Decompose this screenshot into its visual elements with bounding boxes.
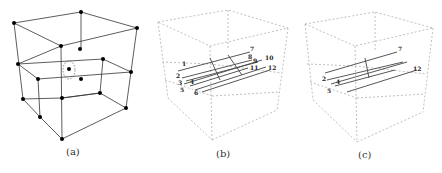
label-9: 9 bbox=[253, 57, 257, 64]
caption-c: (c) bbox=[358, 149, 371, 160]
caption-b: (b) bbox=[216, 148, 230, 159]
panel-a: (a) bbox=[0, 0, 150, 173]
label-5: 5 bbox=[327, 87, 331, 94]
caption-a: (a) bbox=[66, 146, 80, 157]
label-8: 8 bbox=[248, 53, 252, 60]
label-4: 4 bbox=[336, 78, 340, 85]
label-11: 11 bbox=[250, 64, 258, 71]
label-7: 7 bbox=[398, 45, 402, 52]
panel-c: 2 4 5 7 12 (c) bbox=[295, 0, 442, 173]
label-6: 6 bbox=[194, 89, 198, 96]
panel-b: 1 2 3 4 5 6 7 8 9 10 11 12 (b) bbox=[150, 0, 300, 173]
label-2: 2 bbox=[176, 72, 180, 79]
label-3: 3 bbox=[178, 79, 182, 86]
label-1: 1 bbox=[182, 60, 186, 67]
label-5: 5 bbox=[180, 86, 184, 93]
label-12: 12 bbox=[413, 65, 421, 72]
label-2: 2 bbox=[322, 75, 326, 82]
label-10: 10 bbox=[265, 54, 273, 61]
label-7: 7 bbox=[250, 45, 254, 52]
arrow-cube-diagram-c: 2 4 5 7 12 bbox=[295, 0, 442, 173]
label-12: 12 bbox=[268, 64, 276, 71]
label-4: 4 bbox=[190, 78, 194, 85]
